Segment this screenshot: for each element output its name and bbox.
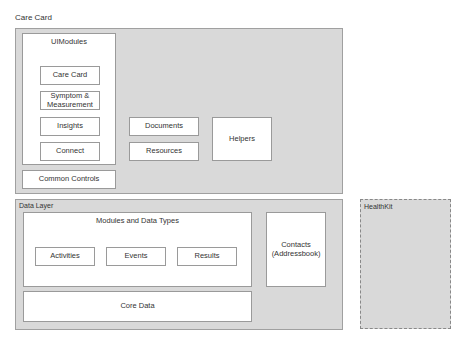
activities-box: Activities bbox=[35, 247, 95, 266]
data-layer-label: Data Layer bbox=[19, 202, 53, 209]
events-box: Events bbox=[106, 247, 166, 266]
module-symptom-measurement: Symptom & Measurement bbox=[40, 91, 100, 110]
uimodules-label: UIModules bbox=[23, 37, 115, 46]
core-data-box: Core Data bbox=[23, 291, 252, 322]
healthkit-group: HealthKit bbox=[360, 199, 451, 329]
module-insights: Insights bbox=[40, 117, 100, 136]
module-care-card: Care Card bbox=[40, 66, 100, 85]
healthkit-label: HealthKit bbox=[364, 203, 392, 210]
common-controls-box: Common Controls bbox=[22, 170, 116, 189]
resources-box: Resources bbox=[129, 142, 199, 161]
module-connect: Connect bbox=[40, 142, 100, 161]
diagram-title: Care Card bbox=[15, 13, 52, 22]
helpers-box: Helpers bbox=[212, 117, 272, 161]
modules-data-types-label: Modules and Data Types bbox=[24, 216, 251, 225]
contacts-box: Contacts (Addressbook) bbox=[266, 212, 326, 287]
results-box: Results bbox=[177, 247, 237, 266]
documents-box: Documents bbox=[129, 117, 199, 136]
